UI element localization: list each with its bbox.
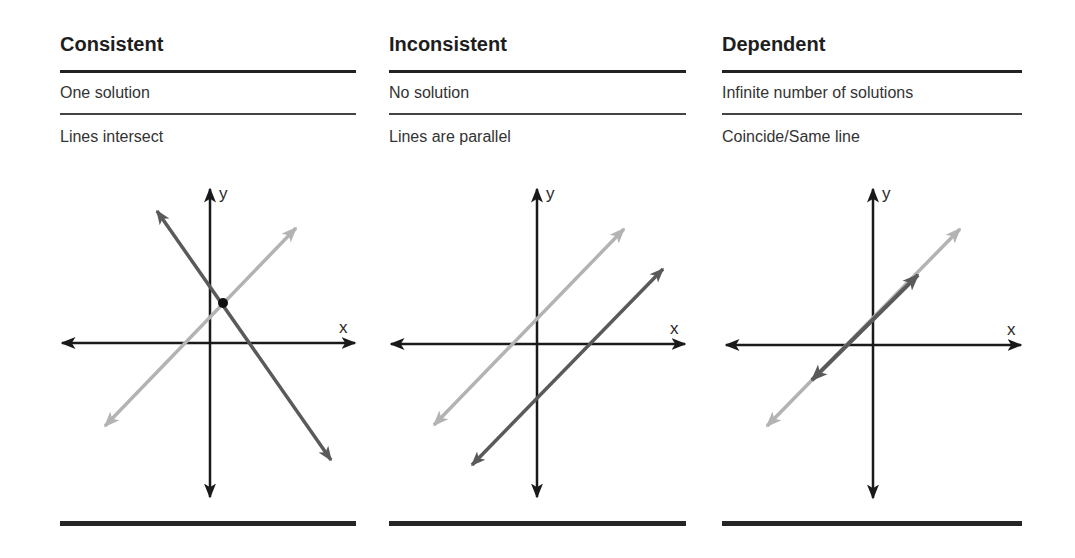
intersection-point xyxy=(218,298,228,308)
x-axis-label: x xyxy=(1007,320,1016,339)
y-axis-label: y xyxy=(219,184,228,203)
y-axis-label: y xyxy=(882,184,891,203)
y-axis-label: y xyxy=(546,184,555,203)
graphs-canvas: x y x y x y xyxy=(0,0,1075,558)
light-line xyxy=(434,229,624,425)
graph-dependent: x y xyxy=(726,184,1021,498)
x-axis-label: x xyxy=(670,319,679,338)
dark-line xyxy=(157,211,331,460)
dark-line xyxy=(472,269,663,465)
graph-consistent: x y xyxy=(62,184,355,497)
dark-line xyxy=(812,275,918,380)
light-line xyxy=(105,228,296,426)
graph-inconsistent: x y xyxy=(391,184,685,497)
x-axis-label: x xyxy=(339,318,348,337)
